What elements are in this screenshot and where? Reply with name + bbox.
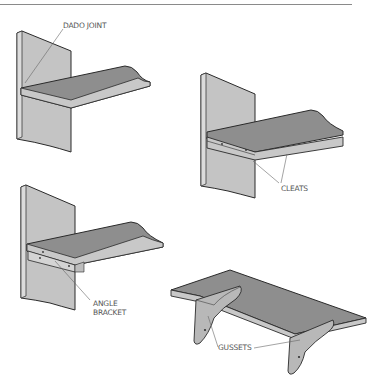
dado-joint-label: DADO JOINT <box>63 22 106 30</box>
dado-joint-panel <box>17 29 150 152</box>
gussets-label: GUSSETS <box>218 344 252 352</box>
angle-bracket-panel <box>21 185 163 310</box>
angle-label: ANGLE <box>93 300 117 308</box>
bracket-label: BRACKET <box>93 309 126 317</box>
gussets-panel <box>171 270 366 374</box>
cleats-label: CLEATS <box>281 185 308 193</box>
cleats-panel <box>201 73 343 198</box>
shelf-diagram <box>0 0 381 390</box>
